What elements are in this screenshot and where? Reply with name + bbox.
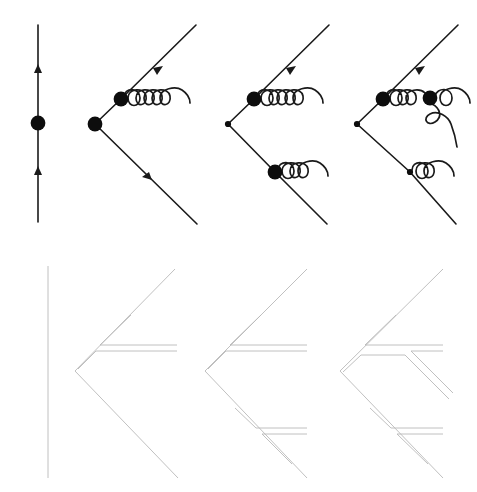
panel-3-amplitude — [225, 25, 329, 224]
gluon-upper-incoming — [386, 90, 425, 106]
arrowhead-upper-branch — [286, 66, 296, 75]
flow-line-gluon-lower-strand — [78, 351, 177, 369]
vertex-dot-gluon-emission-lower — [407, 169, 413, 175]
flow-line-gluon-lower-strand-a — [235, 408, 307, 428]
amplitude-row — [31, 25, 470, 224]
gluon-lower — [412, 161, 454, 178]
flow-line-gluon-branch-strand-b — [343, 355, 449, 399]
arrowhead-upper-branch — [153, 66, 163, 75]
arrowhead-up-upper — [34, 64, 42, 73]
flow-line-gluon-lower-strand-a — [370, 408, 443, 428]
gluon-lower — [278, 161, 328, 178]
gluon-upper — [257, 88, 323, 105]
flow-line-outer-chevron — [340, 269, 443, 478]
flow-line-outer-chevron — [205, 269, 307, 478]
fermion-line-lower — [95, 124, 197, 224]
vertex-blob-center — [31, 116, 46, 131]
panel-2-colour-flow — [75, 269, 178, 478]
flow-line-gluon-upper-strand-a — [230, 315, 307, 345]
arrowhead-upper-branch — [415, 66, 425, 75]
vertex-blob-gluon-emission-upper — [376, 92, 391, 107]
fermion-line-upper-outer — [254, 25, 329, 99]
vertex-blob-triple-gluon — [423, 91, 438, 106]
panel-2-amplitude — [88, 25, 197, 224]
arrowhead-lower-branch — [142, 172, 152, 180]
vertex-dot-apex — [225, 121, 231, 127]
colour-flow-row — [48, 266, 453, 478]
figure-root: Feynman diagrams with corresponding colo… — [0, 0, 477, 492]
flow-line-outer-chevron — [75, 269, 178, 478]
panel-4-amplitude — [354, 25, 470, 224]
vertex-blob-gluon-emission-lower — [268, 165, 283, 180]
flow-line-gluon-lower-strand-b — [397, 434, 443, 464]
feynman-colour-flow-figure: Feynman diagrams with corresponding colo… — [0, 0, 477, 492]
panel-4-colour-flow — [340, 269, 453, 478]
fermion-line-upper-outer — [383, 25, 458, 99]
gluon-outgoing-right — [435, 88, 470, 105]
vertex-blob-gluon-emission-upper — [247, 92, 262, 107]
fermion-line-lower-outer — [410, 172, 456, 224]
flow-line-gluon-upper-strand-a — [365, 315, 443, 345]
flow-line-gluon-upper-strand — [100, 315, 177, 345]
fermion-line-lower-outer — [275, 172, 327, 224]
panel-3-colour-flow — [205, 269, 307, 478]
gluon-upper — [124, 88, 190, 105]
fermion-line-lower-inner — [357, 124, 410, 172]
panel-1-amplitude — [31, 25, 46, 222]
vertex-dot-apex — [354, 121, 360, 127]
fermion-line-lower-inner — [228, 124, 275, 172]
vertex-blob-gluon-emission — [114, 92, 129, 107]
fermion-line-upper-outer — [121, 25, 196, 99]
flow-line-gluon-branch-strand — [411, 351, 453, 393]
flow-line-gluon-upper-strand-b — [208, 351, 307, 369]
vertex-blob-apex — [88, 117, 103, 132]
gluon-outgoing-down — [426, 104, 457, 147]
arrowhead-up-lower — [34, 166, 42, 175]
